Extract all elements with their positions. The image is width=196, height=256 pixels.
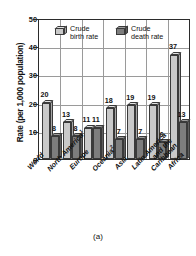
x-label-world: World	[26, 151, 45, 171]
legend-swatch-birth	[55, 26, 66, 35]
swatch-face	[55, 28, 64, 35]
bar-group-world: 20 8	[39, 20, 60, 159]
bar-group-oceania: 18 7	[103, 20, 124, 159]
value-asia-death: 7	[138, 127, 142, 136]
value-europe-birth: 11	[83, 115, 91, 124]
legend-swatch-death	[116, 26, 127, 35]
value-north-america-birth: 13	[62, 110, 70, 119]
swatch-face	[116, 28, 125, 35]
value-asia-birth: 19	[126, 93, 134, 102]
bar-world-birth[interactable]	[42, 103, 50, 159]
legend-death-line2: death rate	[131, 32, 163, 41]
value-africa-death: 13	[178, 110, 186, 119]
legend-birth-line2: birth rate	[70, 32, 98, 41]
legend-label-birth: Crude birth rate	[70, 25, 98, 42]
bar-face	[42, 103, 50, 159]
figure: Rate (per 1,000 population) 0 10 20 30 4…	[0, 0, 196, 256]
bar-group-africa: 37 13	[168, 20, 189, 159]
bar-asia-birth[interactable]	[127, 105, 135, 159]
figure-caption: (a)	[0, 232, 196, 241]
value-oceania-death: 7	[117, 127, 121, 136]
value-oceania-birth: 18	[105, 96, 113, 105]
bar-face	[127, 105, 135, 159]
value-latin-america-birth: 19	[148, 93, 156, 102]
value-africa-birth: 37	[169, 42, 177, 51]
value-world-death: 8	[52, 124, 56, 133]
bar-side	[187, 120, 190, 159]
x-label-world-text: World	[25, 151, 45, 172]
legend-label-death: Crude death rate	[131, 25, 163, 42]
value-world-birth: 20	[41, 90, 49, 99]
value-europe-death: 11	[92, 115, 100, 124]
